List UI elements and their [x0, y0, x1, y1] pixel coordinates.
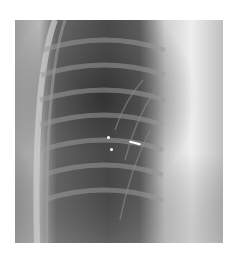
arrow-marker-vertical-top — [107, 136, 110, 139]
chest-xray-image — [15, 20, 223, 243]
arrow-marker-vertical-bottom — [110, 148, 113, 151]
xray-graphic — [15, 20, 223, 243]
